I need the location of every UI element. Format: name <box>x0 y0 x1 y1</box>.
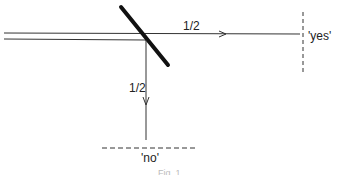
yes-detector-label: 'yes' <box>308 29 331 43</box>
transmitted-probability-label: 1/2 <box>183 19 200 33</box>
reflected-probability-label: 1/2 <box>129 81 146 95</box>
no-detector-label: 'no' <box>141 151 159 165</box>
incoming-beam-bottom <box>4 39 146 40</box>
incoming-beam-top <box>4 33 300 34</box>
beam-splitter-diagram: 1/2 'yes' 1/2 'no' Fig. 1 <box>0 0 337 175</box>
half-silvered-mirror <box>121 7 168 65</box>
figure-caption: Fig. 1 <box>158 168 181 175</box>
